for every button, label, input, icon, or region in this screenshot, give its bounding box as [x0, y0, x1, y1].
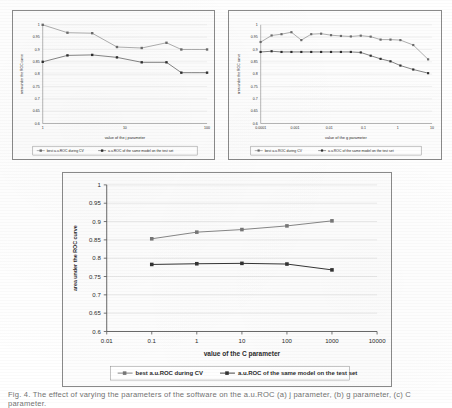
svg-text:0.6: 0.6	[253, 122, 258, 126]
legend-label-test-g: a.u.ROC of the same model on the test se…	[328, 149, 394, 153]
legend-label-cv-c: best a.u.ROC during CV	[136, 370, 203, 376]
x-axis-title-j: value of the j parameter	[105, 136, 146, 140]
svg-text:0.1: 0.1	[148, 338, 157, 344]
legend-g: best a.u.ROC during CV a.u.ROC of the sa…	[251, 146, 421, 155]
svg-text:0.95: 0.95	[89, 200, 101, 206]
x-tick-labels-c: 0.01 0.1 1 10 100 1000 10000	[101, 338, 386, 344]
legend-label-test-j: a.u.ROC of the same model on the test se…	[108, 149, 173, 153]
svg-text:100: 100	[282, 338, 293, 344]
chart-svg-g: 1 0.95 0.9 0.85 0.8 0.75 0.7 0.65 0.6 0.…	[229, 11, 441, 159]
series-line-cv-g	[261, 32, 428, 59]
svg-text:1: 1	[256, 23, 258, 27]
svg-text:0.8: 0.8	[35, 72, 40, 76]
svg-text:1: 1	[42, 126, 44, 130]
legend-label-cv-j: best a.u.ROC during CV	[47, 149, 85, 153]
svg-text:0.95: 0.95	[251, 35, 258, 39]
svg-text:0.85: 0.85	[251, 60, 258, 64]
svg-text:0.01: 0.01	[101, 338, 113, 344]
legend-c: best a.u.ROC during CV a.u.ROC of the sa…	[111, 366, 358, 380]
figure-caption: Fig. 4. The effect of varying the parame…	[8, 390, 448, 408]
chart-panel-j: 1 0.95 0.9 0.85 0.8 0.75 0.7 0.65 0.6 1 …	[12, 10, 215, 160]
svg-text:0.01: 0.01	[326, 126, 333, 130]
svg-text:10: 10	[239, 338, 246, 344]
series-markers-test-g	[260, 50, 430, 74]
gridlines-j	[43, 25, 207, 111]
series-markers-test-j	[42, 54, 209, 74]
y-tick-labels-g: 1 0.95 0.9 0.85 0.8 0.75 0.7 0.65 0.6	[251, 23, 258, 126]
svg-text:1: 1	[397, 126, 399, 130]
x-axis-title-c: value of the C parameter	[204, 350, 281, 358]
chart-panel-c: 1 0.95 0.9 0.85 0.8 0.75 0.7 0.65 0.6	[62, 172, 392, 387]
chart-svg-c: 1 0.95 0.9 0.85 0.8 0.75 0.7 0.65 0.6	[63, 173, 391, 386]
svg-text:0.75: 0.75	[251, 85, 258, 89]
svg-text:0.0001: 0.0001	[255, 126, 266, 130]
svg-text:0.95: 0.95	[33, 35, 40, 39]
svg-text:10: 10	[123, 126, 127, 130]
svg-text:0.001: 0.001	[291, 126, 300, 130]
svg-text:10000: 10000	[369, 338, 386, 344]
svg-text:0.65: 0.65	[89, 310, 101, 316]
svg-text:1000: 1000	[325, 338, 339, 344]
svg-text:100: 100	[204, 126, 210, 130]
legend-label-cv-g: best a.u.ROC during CV	[265, 149, 303, 153]
svg-text:0.75: 0.75	[33, 85, 40, 89]
gridlines-c	[107, 185, 377, 313]
y-axis-title-c: area under the ROC curve	[72, 225, 78, 291]
svg-text:1: 1	[38, 23, 40, 27]
svg-text:0.65: 0.65	[251, 109, 258, 113]
svg-text:0.7: 0.7	[253, 97, 258, 101]
series-line-test-g	[261, 51, 428, 73]
svg-text:0.6: 0.6	[35, 122, 40, 126]
chart-panel-g: 1 0.95 0.9 0.85 0.8 0.75 0.7 0.65 0.6 0.…	[228, 10, 442, 160]
series-line-test-j	[43, 55, 207, 73]
y-axis-title-j: area under the ROC curve	[20, 54, 24, 94]
svg-text:1: 1	[97, 182, 101, 188]
x-tick-labels-j: 1 10 100	[42, 126, 210, 130]
svg-text:10: 10	[430, 126, 434, 130]
chart-svg-j: 1 0.95 0.9 0.85 0.8 0.75 0.7 0.65 0.6 1 …	[13, 11, 214, 159]
y-tick-labels-c: 1 0.95 0.9 0.85 0.8 0.75 0.7 0.65 0.6	[89, 182, 101, 335]
series-markers-cv-g	[260, 31, 430, 60]
svg-text:0.7: 0.7	[35, 97, 40, 101]
svg-text:0.65: 0.65	[33, 109, 40, 113]
svg-text:0.7: 0.7	[92, 292, 101, 298]
svg-text:0.9: 0.9	[92, 219, 101, 225]
svg-text:0.75: 0.75	[89, 274, 101, 280]
svg-text:1: 1	[195, 338, 199, 344]
y-axis-title-g: area under the ROC curve	[237, 54, 241, 94]
svg-text:0.85: 0.85	[33, 60, 40, 64]
svg-text:0.85: 0.85	[89, 237, 101, 243]
svg-text:0.6: 0.6	[92, 329, 101, 335]
svg-text:0.1: 0.1	[361, 126, 366, 130]
svg-text:0.8: 0.8	[253, 72, 258, 76]
gridlines-g	[261, 25, 432, 111]
series-markers-cv-c	[150, 219, 334, 240]
svg-text:0.9: 0.9	[253, 48, 258, 52]
legend-j: best a.u.ROC during CV a.u.ROC of the sa…	[33, 146, 197, 155]
svg-text:0.9: 0.9	[35, 48, 40, 52]
x-axis-title-g: value of the g parameter	[325, 136, 367, 140]
x-tick-labels-g: 0.0001 0.001 0.01 0.1 1 10	[255, 126, 434, 130]
y-tick-labels-j: 1 0.95 0.9 0.85 0.8 0.75 0.7 0.65 0.6	[33, 23, 40, 126]
legend-label-test-c: a.u.ROC of the same model on the test se…	[238, 370, 357, 376]
svg-text:0.8: 0.8	[92, 255, 101, 261]
